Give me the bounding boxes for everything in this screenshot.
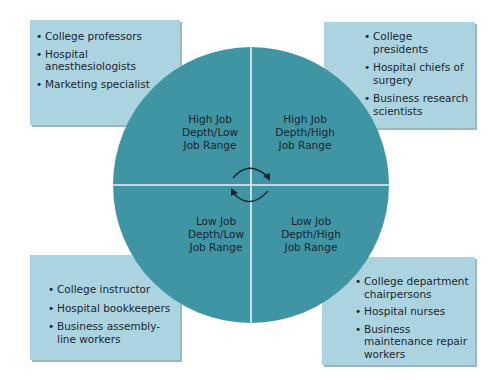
- label-line: Low Job: [261, 215, 361, 228]
- label-line: High Job: [255, 113, 355, 126]
- label-line: Job Range: [261, 241, 361, 254]
- quadrant-circle: [0, 0, 494, 380]
- label-line: Depth/Low: [160, 126, 260, 139]
- label-line: Depth/Low: [166, 228, 266, 241]
- quadrant-label-low-depth-low-range: Low Job Depth/Low Job Range: [166, 215, 266, 254]
- label-line: Job Range: [255, 139, 355, 152]
- label-line: Depth/High: [255, 126, 355, 139]
- quadrant-label-high-depth-high-range: High Job Depth/High Job Range: [255, 113, 355, 152]
- quadrant-label-low-depth-high-range: Low Job Depth/High Job Range: [261, 215, 361, 254]
- label-line: Low Job: [166, 215, 266, 228]
- label-line: Job Range: [160, 139, 260, 152]
- label-line: High Job: [160, 113, 260, 126]
- label-line: Depth/High: [261, 228, 361, 241]
- quadrant-label-high-depth-low-range: High Job Depth/Low Job Range: [160, 113, 260, 152]
- label-line: Job Range: [166, 241, 266, 254]
